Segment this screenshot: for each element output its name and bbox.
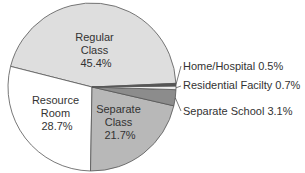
pie-chart: Regular Class 45.4% Resource Room 28.7% … [0, 0, 305, 173]
pie-slices [8, 3, 176, 171]
callout-separate-school: Separate School 3.1% [183, 105, 293, 117]
callout-residential-facility: Residential Facilty 0.7% [183, 79, 301, 91]
callout-home-hospital: Home/Hospital 0.5% [183, 60, 283, 72]
label-regular-class: Regular Class 45.4% [75, 31, 117, 69]
leader-line [175, 98, 181, 111]
leader-line [176, 86, 181, 88]
leader-line [176, 66, 181, 85]
